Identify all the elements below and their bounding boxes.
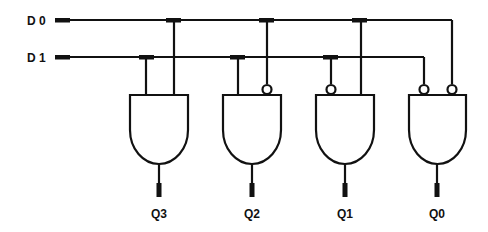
and-gate-q3 — [130, 95, 188, 164]
q0-terminal — [435, 183, 440, 197]
and-gate-q2 — [223, 95, 281, 164]
output-label-q1: Q1 — [337, 207, 353, 221]
decoder-circuit-diagram: D 0 D 1 Q3 Q2 Q1 Q0 — [0, 0, 488, 232]
inverter-bubble-icon — [263, 85, 272, 94]
q2-terminal — [250, 183, 255, 197]
output-label-q0: Q0 — [429, 207, 445, 221]
q1-terminal — [343, 183, 348, 197]
junction-dot — [139, 55, 154, 60]
input-label-d1: D 1 — [27, 51, 46, 65]
and-gate-q1 — [316, 95, 374, 164]
d0-terminal — [55, 18, 70, 23]
junction-dot — [166, 18, 181, 23]
inverter-bubble-icon — [327, 85, 336, 94]
junction-dot — [323, 55, 338, 60]
output-label-q2: Q2 — [244, 207, 260, 221]
inverter-bubble-icon — [420, 85, 429, 94]
junction-dot — [352, 18, 367, 23]
junction-dot — [259, 18, 274, 23]
junction-dot — [230, 55, 245, 60]
input-label-d0: D 0 — [27, 14, 46, 28]
q3-terminal — [157, 183, 162, 197]
output-label-q3: Q3 — [151, 207, 167, 221]
inverter-bubble-icon — [448, 85, 457, 94]
and-gate-q0 — [409, 95, 466, 164]
d1-terminal — [55, 55, 70, 60]
